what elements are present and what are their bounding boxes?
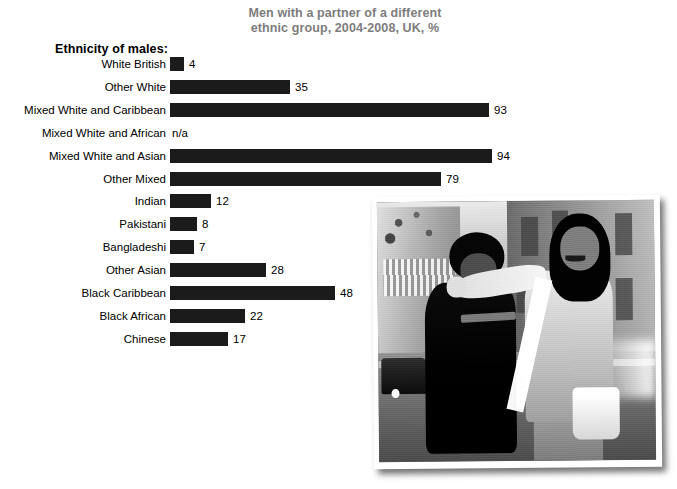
photo-window <box>616 278 633 320</box>
bar <box>170 263 266 277</box>
value-label: 8 <box>202 217 208 231</box>
chart-title: Men with a partner of a different ethnic… <box>200 6 490 36</box>
photo-woman-smile <box>566 255 585 261</box>
bar <box>170 332 228 346</box>
axis-header: Ethnicity of males: <box>0 42 168 56</box>
value-label: 94 <box>497 149 510 163</box>
photo-window <box>615 213 632 255</box>
value-label: 28 <box>271 263 284 277</box>
category-label: Bangladeshi <box>0 240 166 262</box>
value-label: 93 <box>494 103 507 117</box>
bar <box>170 194 211 208</box>
bar-row: White British4 <box>0 57 677 79</box>
value-label-missing: n/a <box>172 126 188 140</box>
value-label: 12 <box>216 194 229 208</box>
category-label: Chinese <box>0 332 166 354</box>
photo-woman-face <box>560 226 599 271</box>
bar-row: Other Mixed79 <box>0 172 677 194</box>
bar-row: Mixed White and Caribbean93 <box>0 103 677 125</box>
bar <box>170 172 441 186</box>
category-label: Black Caribbean <box>0 286 166 308</box>
bar <box>170 286 335 300</box>
photo-woman-bag <box>572 387 620 439</box>
bar <box>170 149 492 163</box>
photo-foliage <box>377 202 449 255</box>
category-label: Black African <box>0 309 166 331</box>
category-label: Pakistani <box>0 217 166 239</box>
bar <box>170 240 194 254</box>
bar-row: Mixed White and Africann/a <box>0 126 677 148</box>
chart-title-line-1: Men with a partner of a different <box>200 6 490 21</box>
photo-window <box>521 216 538 255</box>
category-label: Other White <box>0 80 166 102</box>
category-label: Mixed White and Asian <box>0 149 166 171</box>
category-label: Other Mixed <box>0 172 166 194</box>
photo-woman-hand <box>447 277 467 298</box>
value-label: 7 <box>199 240 205 254</box>
category-label: Indian <box>0 194 166 216</box>
bar <box>170 80 290 94</box>
photo-man-body <box>425 282 518 454</box>
category-label: Mixed White and Caribbean <box>0 103 166 125</box>
value-label: 48 <box>340 286 353 300</box>
bar <box>170 309 245 323</box>
photo-image <box>377 200 656 462</box>
bar <box>170 57 184 71</box>
category-label: Other Asian <box>0 263 166 285</box>
category-label: Mixed White and African <box>0 126 166 148</box>
photo-inset <box>372 195 662 470</box>
value-label: 35 <box>295 80 308 94</box>
bar-row: Other White35 <box>0 80 677 102</box>
chart-title-line-2: ethnic group, 2004-2008, UK, % <box>200 21 490 36</box>
photo-car <box>381 358 428 395</box>
category-label: White British <box>0 57 166 79</box>
value-label: 22 <box>250 309 263 323</box>
value-label: 4 <box>189 57 195 71</box>
bar-row: Mixed White and Asian94 <box>0 149 677 171</box>
chart-figure: Men with a partner of a different ethnic… <box>0 0 677 489</box>
bar <box>170 217 197 231</box>
value-label: 17 <box>233 332 246 346</box>
bar <box>170 103 489 117</box>
value-label: 79 <box>446 172 459 186</box>
